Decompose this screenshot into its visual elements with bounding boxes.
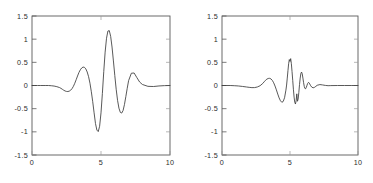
y-tick-label: -1 xyxy=(21,127,28,136)
x-tick-labels-left: 0 5 10 xyxy=(30,158,174,167)
y-tick-label: 1 xyxy=(214,35,218,44)
y-tick-label: -1 xyxy=(211,127,218,136)
chart-panel-left: 1.5 1 0.5 0 -0.5 -1 -1.5 0 5 10 xyxy=(0,0,186,183)
data-line xyxy=(222,59,358,104)
y-tick-label: 0.5 xyxy=(207,58,218,67)
data-line xyxy=(32,31,170,132)
y-tick-label: 0 xyxy=(24,81,28,90)
y-tick-labels-right: 1.5 1 0.5 0 -0.5 -1 -1.5 xyxy=(204,12,218,160)
x-tick-label: 0 xyxy=(220,158,224,167)
x-tick-labels-right: 0 5 10 xyxy=(220,158,362,167)
y-tick-label: -0.5 xyxy=(14,104,28,113)
x-tick-label: 10 xyxy=(166,158,175,167)
y-tick-label: -0.5 xyxy=(204,104,218,113)
plot-area-right xyxy=(222,16,358,155)
y-tick-label: -1.5 xyxy=(204,151,218,160)
chart-svg-right: 1.5 1 0.5 0 -0.5 -1 -1.5 0 5 10 xyxy=(187,0,373,183)
x-tick-label: 10 xyxy=(354,158,363,167)
figure-container: 1.5 1 0.5 0 -0.5 -1 -1.5 0 5 10 xyxy=(0,0,373,183)
x-tick-label: 5 xyxy=(288,158,292,167)
y-tick-label: 1.5 xyxy=(17,12,28,21)
y-tick-label: 0.5 xyxy=(17,58,28,67)
chart-panel-right: 1.5 1 0.5 0 -0.5 -1 -1.5 0 5 10 xyxy=(187,0,373,183)
plot-area-left xyxy=(32,16,170,155)
y-tick-label: 0 xyxy=(214,81,218,90)
y-tick-label: 1 xyxy=(24,35,28,44)
y-tick-label: -1.5 xyxy=(14,151,28,160)
x-tick-label: 5 xyxy=(99,158,103,167)
chart-svg-left: 1.5 1 0.5 0 -0.5 -1 -1.5 0 5 10 xyxy=(0,0,186,183)
x-tick-label: 0 xyxy=(30,158,34,167)
y-tick-labels-left: 1.5 1 0.5 0 -0.5 -1 -1.5 xyxy=(14,12,28,160)
y-tick-label: 1.5 xyxy=(207,12,218,21)
